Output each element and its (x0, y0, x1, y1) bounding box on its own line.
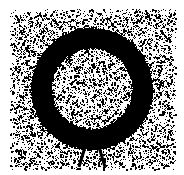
image-canvas-container: Black ring shape with two splayed legs o… (0, 0, 184, 175)
noisy-ring-image (0, 0, 184, 175)
